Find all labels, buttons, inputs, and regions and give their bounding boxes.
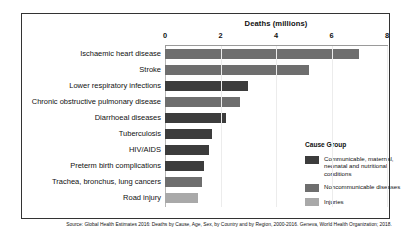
- x-tick-label-2: 2: [218, 31, 222, 40]
- category-label: Ischaemic heart disease: [1, 46, 161, 62]
- bar: [165, 145, 209, 154]
- bar: [165, 193, 198, 202]
- legend: Cause Group Communicable, maternal, neon…: [305, 141, 409, 212]
- legend-item: Noncommunicable diseases: [305, 183, 409, 192]
- x-tick-label-4: 4: [274, 31, 278, 40]
- legend-items: Communicable, maternal, neonatal and nut…: [305, 155, 409, 206]
- source-note: Source: Global Health Estimates 2016: De…: [46, 222, 412, 227]
- legend-label: Communicable, maternal, neonatal and nut…: [324, 155, 409, 177]
- gridline-8: [387, 46, 388, 207]
- x-tick-label-0: 0: [163, 31, 167, 40]
- chart-frame: Deaths (millions) 02468 Ischaemic heart …: [21, 13, 390, 219]
- bar: [165, 49, 359, 58]
- chart-title: Deaths (millions): [162, 19, 390, 28]
- bar: [165, 129, 212, 138]
- legend-item: Communicable, maternal, neonatal and nut…: [305, 155, 409, 177]
- gridline-6: [332, 46, 333, 207]
- bar: [165, 65, 309, 74]
- bar: [165, 161, 204, 170]
- category-label: HIV/AIDS: [1, 142, 161, 158]
- x-tick-label-6: 6: [329, 31, 333, 40]
- legend-swatch: [305, 184, 319, 192]
- legend-swatch: [305, 198, 319, 206]
- category-label: Trachea, bronchus, lung cancers: [1, 174, 161, 190]
- bar: [165, 113, 226, 122]
- bar: [165, 97, 240, 106]
- x-tick-mark-0: [165, 45, 166, 48]
- category-label: Tuberculosis: [1, 126, 161, 142]
- gridline-2: [221, 46, 222, 207]
- legend-swatch: [305, 156, 319, 164]
- legend-label: Injuries: [324, 198, 344, 205]
- category-label: Stroke: [1, 62, 161, 78]
- x-tick-label-8: 8: [385, 31, 389, 40]
- category-label: Road injury: [1, 190, 161, 206]
- legend-label: Noncommunicable diseases: [324, 183, 400, 190]
- category-label: Preterm birth complications: [1, 158, 161, 174]
- x-axis-tick-labels: 02468: [165, 31, 387, 44]
- legend-title: Cause Group: [305, 141, 409, 148]
- category-label: Diarrhoeal diseases: [1, 110, 161, 126]
- legend-item: Injuries: [305, 198, 409, 207]
- bar: [165, 81, 248, 90]
- category-label: Chronic obstructive pulmonary disease: [1, 94, 161, 110]
- category-label: Lower respiratory infections: [1, 78, 161, 94]
- gridline-4: [276, 46, 277, 207]
- bar: [165, 177, 202, 186]
